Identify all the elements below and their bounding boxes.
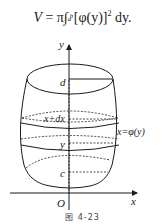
y-level-dashed xyxy=(21,136,119,140)
label-d: d xyxy=(60,76,66,88)
origin-label: O xyxy=(57,197,65,209)
x-axis-label: x xyxy=(131,195,136,207)
right-side-curve xyxy=(90,79,117,186)
label-x-plus-dx: x+dx xyxy=(44,113,65,125)
label-c: c xyxy=(60,167,65,179)
y-axis-label: y xyxy=(59,38,64,50)
label-y: y xyxy=(60,138,65,150)
slab-solid-line-1 xyxy=(21,123,119,129)
left-side-curve xyxy=(20,79,50,186)
slab-solid-line-2 xyxy=(21,145,119,151)
figure-caption: 图 4-23 xyxy=(0,211,165,222)
bottom-curve xyxy=(50,186,90,188)
c-level-dashed xyxy=(26,156,110,169)
solid-of-revolution-diagram xyxy=(0,0,165,224)
slab-top-back xyxy=(22,111,118,118)
curve-label: x=φ(y) xyxy=(117,126,145,138)
